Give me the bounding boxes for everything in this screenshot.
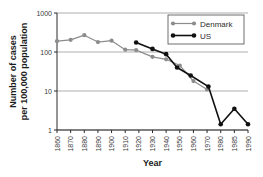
x-tick-label: 1970 <box>204 136 211 152</box>
x-tick-label: 1960 <box>190 136 197 152</box>
line-chart: 1860187018801890190019101920193019401950… <box>0 0 263 177</box>
data-point-marker <box>82 33 86 37</box>
data-point-marker <box>188 73 193 78</box>
x-tick-label: 1990 <box>245 136 252 152</box>
y-tick-label: 100 <box>40 49 52 56</box>
x-tick-label: 1940 <box>163 136 170 152</box>
y-axis-ticks: 1000100101 <box>36 10 57 134</box>
data-point-marker <box>246 122 251 127</box>
x-axis-title: Year <box>143 158 163 168</box>
x-tick-label: 1860 <box>54 136 61 152</box>
y-axis-title-line-1: Number of cases <box>8 35 18 108</box>
x-tick-label: 1900 <box>108 136 115 152</box>
data-point-marker <box>164 52 169 57</box>
x-tick-label: 1910 <box>122 136 129 152</box>
data-point-marker <box>191 79 195 83</box>
data-point-marker <box>232 106 237 111</box>
legend-marker-us <box>192 33 197 38</box>
data-point-marker <box>150 55 154 59</box>
x-axis-ticks: 1860187018801890190019101920193019401950… <box>54 130 252 152</box>
data-point-marker <box>206 84 211 89</box>
x-tick-label: 1920 <box>135 136 142 152</box>
data-point-marker <box>175 65 180 70</box>
data-point-marker <box>123 48 127 52</box>
x-tick-label: 1985 <box>231 136 238 152</box>
data-point-marker <box>150 47 155 52</box>
series-us <box>134 40 250 126</box>
x-tick-label: 1890 <box>95 136 102 152</box>
legend-label-denmark: Denmark <box>200 20 233 29</box>
data-point-marker <box>69 38 73 42</box>
data-series-layer <box>55 33 250 127</box>
x-tick-label: 1980 <box>217 136 224 152</box>
x-tick-label: 1880 <box>81 136 88 152</box>
data-point-marker <box>55 39 59 43</box>
legend-label-us: US <box>200 32 211 41</box>
data-point-marker <box>96 40 100 44</box>
y-tick-label: 1000 <box>36 10 52 17</box>
x-tick-label: 1950 <box>176 136 183 152</box>
data-point-marker <box>134 40 139 45</box>
legend-marker-us <box>171 33 176 38</box>
data-point-marker <box>109 39 113 43</box>
chart-container: 1860187018801890190019101920193019401950… <box>0 0 263 177</box>
data-point-marker <box>134 48 138 52</box>
data-point-marker <box>164 57 168 61</box>
y-tick-label: 1 <box>48 127 52 134</box>
data-point-marker <box>218 122 223 127</box>
legend-marker-denmark <box>171 21 175 25</box>
series-line <box>136 43 248 125</box>
y-axis-title-line-2: per 100,000 population <box>19 23 29 121</box>
chart-legend: DenmarkUS <box>168 15 244 44</box>
x-tick-label: 1870 <box>67 136 74 152</box>
x-tick-label: 1930 <box>149 136 156 152</box>
y-tick-label: 10 <box>44 88 52 95</box>
legend-marker-denmark <box>192 21 196 25</box>
